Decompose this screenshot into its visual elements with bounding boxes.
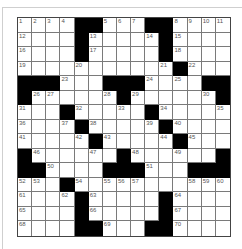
answer-cell[interactable]: 60 [216, 178, 230, 193]
answer-cell[interactable]: 40 [173, 120, 187, 135]
answer-cell[interactable]: 5 [103, 18, 117, 33]
answer-cell[interactable]: 2 [32, 18, 46, 33]
answer-cell[interactable]: 9 [188, 18, 202, 33]
answer-cell[interactable]: 43 [103, 134, 117, 149]
answer-cell[interactable] [216, 33, 230, 48]
answer-cell[interactable] [145, 134, 159, 149]
answer-cell[interactable]: 55 [103, 178, 117, 193]
answer-cell[interactable] [145, 192, 159, 207]
answer-cell[interactable]: 7 [131, 18, 145, 33]
answer-cell[interactable] [60, 163, 74, 178]
answer-cell[interactable]: 46 [32, 149, 46, 164]
answer-cell[interactable]: 4 [60, 18, 74, 33]
answer-cell[interactable] [60, 207, 74, 222]
answer-cell[interactable]: 23 [60, 76, 74, 91]
answer-cell[interactable]: 51 [145, 163, 159, 178]
answer-cell[interactable]: 22 [188, 62, 202, 77]
answer-cell[interactable] [216, 62, 230, 77]
answer-cell[interactable]: 41 [18, 134, 32, 149]
answer-cell[interactable] [32, 120, 46, 135]
answer-cell[interactable]: 49 [173, 149, 187, 164]
answer-cell[interactable] [145, 178, 159, 193]
answer-cell[interactable] [216, 207, 230, 222]
answer-cell[interactable] [46, 105, 60, 120]
answer-cell[interactable]: 13 [89, 33, 103, 48]
answer-cell[interactable]: 62 [60, 192, 74, 207]
answer-cell[interactable]: 42 [75, 134, 89, 149]
answer-cell[interactable]: 10 [202, 18, 216, 33]
answer-cell[interactable]: 57 [131, 178, 145, 193]
answer-cell[interactable]: 29 [131, 91, 145, 106]
answer-cell[interactable] [46, 192, 60, 207]
answer-cell[interactable]: 18 [173, 47, 187, 62]
answer-cell[interactable] [32, 207, 46, 222]
answer-cell[interactable] [202, 192, 216, 207]
answer-cell[interactable] [145, 91, 159, 106]
answer-cell[interactable] [32, 47, 46, 62]
answer-cell[interactable]: 30 [202, 91, 216, 106]
answer-cell[interactable]: 11 [216, 18, 230, 33]
answer-cell[interactable] [202, 120, 216, 135]
answer-cell[interactable]: 19 [18, 62, 32, 77]
answer-cell[interactable]: 17 [89, 47, 103, 62]
answer-cell[interactable] [46, 134, 60, 149]
answer-cell[interactable]: 38 [89, 120, 103, 135]
answer-cell[interactable] [89, 105, 103, 120]
answer-cell[interactable] [75, 149, 89, 164]
answer-cell[interactable] [117, 192, 131, 207]
answer-cell[interactable]: 35 [216, 105, 230, 120]
answer-cell[interactable]: 37 [60, 120, 74, 135]
answer-cell[interactable] [75, 76, 89, 91]
answer-cell[interactable]: 54 [75, 178, 89, 193]
answer-cell[interactable] [202, 105, 216, 120]
answer-cell[interactable]: 53 [32, 178, 46, 193]
answer-cell[interactable] [216, 47, 230, 62]
answer-cell[interactable] [103, 33, 117, 48]
answer-cell[interactable]: 58 [188, 178, 202, 193]
answer-cell[interactable]: 31 [18, 105, 32, 120]
answer-cell[interactable] [46, 47, 60, 62]
answer-cell[interactable]: 8 [173, 18, 187, 33]
answer-cell[interactable] [103, 62, 117, 77]
answer-cell[interactable] [202, 134, 216, 149]
answer-cell[interactable] [60, 62, 74, 77]
answer-cell[interactable]: 33 [117, 105, 131, 120]
answer-cell[interactable] [145, 62, 159, 77]
answer-cell[interactable] [89, 163, 103, 178]
answer-cell[interactable] [216, 120, 230, 135]
answer-cell[interactable] [202, 47, 216, 62]
answer-cell[interactable]: 16 [18, 47, 32, 62]
answer-cell[interactable]: 52 [18, 178, 32, 193]
answer-cell[interactable]: 20 [75, 62, 89, 77]
answer-cell[interactable] [188, 105, 202, 120]
answer-cell[interactable] [75, 163, 89, 178]
answer-cell[interactable]: 26 [32, 91, 46, 106]
answer-cell[interactable]: 1 [18, 18, 32, 33]
answer-cell[interactable] [131, 134, 145, 149]
answer-cell[interactable] [60, 149, 74, 164]
answer-cell[interactable] [32, 192, 46, 207]
answer-cell[interactable] [89, 76, 103, 91]
answer-cell[interactable]: 3 [46, 18, 60, 33]
answer-cell[interactable]: 28 [103, 91, 117, 106]
answer-cell[interactable] [32, 134, 46, 149]
answer-cell[interactable]: 45 [188, 134, 202, 149]
answer-cell[interactable] [89, 178, 103, 193]
answer-cell[interactable]: 36 [18, 120, 32, 135]
answer-cell[interactable] [188, 33, 202, 48]
answer-cell[interactable]: 12 [18, 33, 32, 48]
answer-cell[interactable] [159, 178, 173, 193]
answer-cell[interactable] [103, 47, 117, 62]
answer-cell[interactable] [131, 105, 145, 120]
answer-cell[interactable] [159, 91, 173, 106]
answer-cell[interactable]: 50 [46, 163, 60, 178]
answer-cell[interactable] [60, 134, 74, 149]
answer-cell[interactable] [131, 120, 145, 135]
answer-cell[interactable]: 34 [159, 105, 173, 120]
answer-cell[interactable] [202, 207, 216, 222]
answer-cell[interactable] [131, 207, 145, 222]
answer-cell[interactable] [32, 33, 46, 48]
answer-cell[interactable] [103, 120, 117, 135]
answer-cell[interactable] [188, 120, 202, 135]
answer-cell[interactable] [173, 163, 187, 178]
